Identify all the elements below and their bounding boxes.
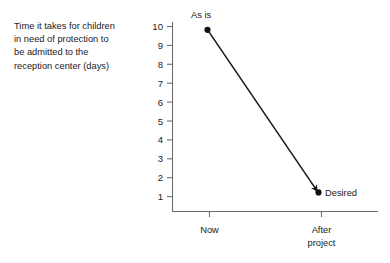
x-label-after: After	[312, 225, 332, 235]
x-axis-labels: Now After project	[200, 225, 336, 248]
chart-page: Time it takes for children in need of pr…	[0, 0, 390, 263]
y-tick-label-10: 10	[152, 21, 163, 32]
data-point-label-desired: Desired	[325, 188, 357, 198]
y-tick-label-6: 6	[158, 97, 163, 108]
y-tick-label-8: 8	[158, 59, 163, 70]
y-tick-label-9: 9	[158, 40, 163, 51]
y-tick-label-5: 5	[158, 116, 163, 127]
series-arrow-line	[208, 31, 317, 191]
x-label-project: project	[308, 238, 336, 248]
chart-plot-area: 10 9 8 7 6 5 4 3 2 1 N	[0, 0, 390, 263]
x-axis-ticks	[210, 212, 322, 218]
data-point-label-as-is: As is	[191, 10, 211, 20]
y-tick-label-2: 2	[158, 172, 163, 183]
x-label-now: Now	[200, 225, 219, 235]
y-tick-label-4: 4	[158, 134, 164, 145]
data-point-desired	[315, 189, 321, 195]
y-axis-ticks: 10 9 8 7 6 5 4 3 2 1	[152, 21, 172, 202]
y-tick-label-1: 1	[158, 191, 163, 202]
y-tick-label-3: 3	[158, 153, 163, 164]
data-point-as-is	[204, 27, 210, 33]
y-tick-label-7: 7	[158, 78, 163, 89]
